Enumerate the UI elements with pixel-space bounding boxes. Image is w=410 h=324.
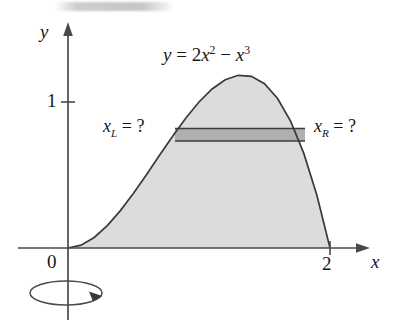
equation-minus: − xyxy=(220,44,231,65)
origin-label: 0 xyxy=(47,252,57,271)
x-right-label: xR = ? xyxy=(314,117,356,135)
equation-equals: = xyxy=(176,44,187,65)
equation-var-2: x xyxy=(236,44,244,65)
y-axis xyxy=(63,22,73,320)
equation-var-1: x xyxy=(201,44,209,65)
tick-label-y-1: 1 xyxy=(47,91,57,110)
axis-label-x: x xyxy=(371,252,379,271)
horizontal-strip xyxy=(175,129,305,142)
rotation-arrow-icon xyxy=(30,281,102,305)
x-left-var: x xyxy=(103,116,111,136)
axis-label-y: y xyxy=(40,22,48,41)
equation-coefficient: 2 xyxy=(192,44,202,65)
x-left-equals: = xyxy=(122,116,132,136)
x-left-label: xL = ? xyxy=(103,117,144,135)
x-right-var: x xyxy=(314,116,322,136)
equation-label: y = 2x2 − x3 xyxy=(163,45,250,64)
x-right-value: ? xyxy=(348,116,356,136)
x-right-equals: = xyxy=(333,116,343,136)
tick-label-x-2: 2 xyxy=(322,254,332,273)
x-left-value: ? xyxy=(136,116,144,136)
x-right-subscript: R xyxy=(322,127,329,139)
equation-exponent-2: 3 xyxy=(244,44,250,57)
